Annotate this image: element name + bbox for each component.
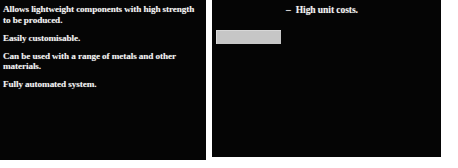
- screenshot-root: Allows lightweight components with high …: [0, 0, 458, 168]
- list-item: Can be used with a range of metals and o…: [3, 51, 203, 72]
- advantages-bullet-list: Allows lightweight components with high …: [3, 4, 203, 90]
- dash-bullet-icon: –: [286, 4, 291, 15]
- disadvantages-heading: –High unit costs.: [286, 4, 358, 15]
- image-placeholder: [216, 30, 281, 44]
- disadvantages-heading-label: High unit costs.: [296, 4, 358, 15]
- list-item: Fully automated system.: [3, 79, 203, 90]
- list-item: Allows lightweight components with high …: [3, 4, 203, 25]
- disadvantages-slide-panel: –High unit costs.: [212, 0, 441, 157]
- advantages-slide-panel: Allows lightweight components with high …: [0, 0, 206, 160]
- list-item: Easily customisable.: [3, 33, 203, 44]
